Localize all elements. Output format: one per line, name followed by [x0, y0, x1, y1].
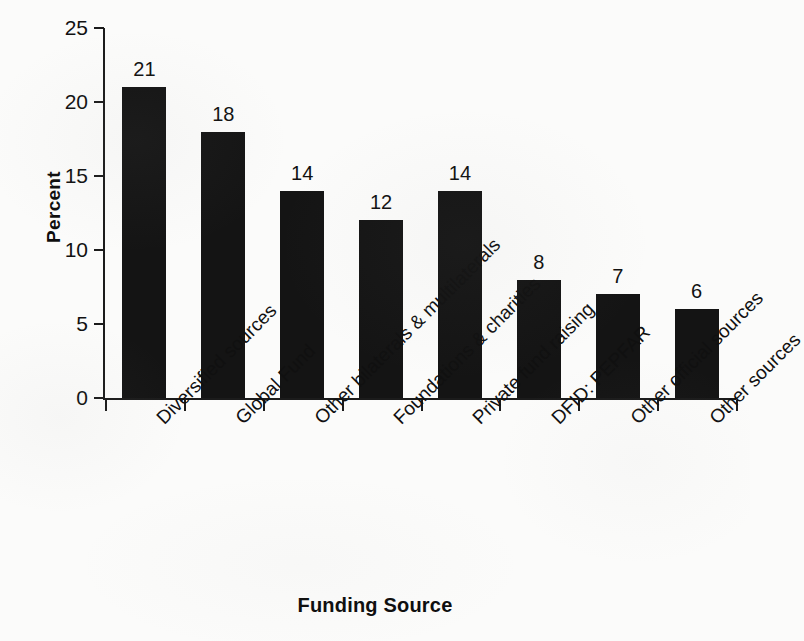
y-tick-mark	[94, 27, 104, 29]
x-axis-title: Funding Source	[0, 594, 750, 617]
y-tick-mark	[94, 323, 104, 325]
bar-value-label: 7	[578, 266, 658, 286]
y-tick-label: 10	[65, 239, 88, 260]
bar-value-label: 12	[341, 192, 421, 212]
bar-value-label: 14	[262, 163, 342, 183]
y-tick-label: 0	[76, 387, 88, 408]
y-tick-mark	[94, 249, 104, 251]
y-tick-mark	[94, 101, 104, 103]
y-tick-label: 5	[76, 313, 88, 334]
bar-value-label: 18	[183, 104, 263, 124]
bar-value-label: 21	[104, 59, 184, 79]
y-tick-mark	[94, 397, 104, 399]
bar-value-label: 8	[499, 252, 579, 272]
y-tick-label: 25	[65, 17, 88, 38]
bar-value-label: 6	[657, 281, 737, 301]
bar-value-label: 14	[420, 163, 500, 183]
x-tick-mark	[105, 400, 107, 411]
bar	[122, 87, 166, 398]
y-axis-line	[103, 28, 105, 400]
y-tick-label: 20	[65, 91, 88, 112]
y-axis-title: Percent	[43, 147, 65, 267]
y-tick-mark	[94, 175, 104, 177]
y-tick-label: 15	[65, 165, 88, 186]
